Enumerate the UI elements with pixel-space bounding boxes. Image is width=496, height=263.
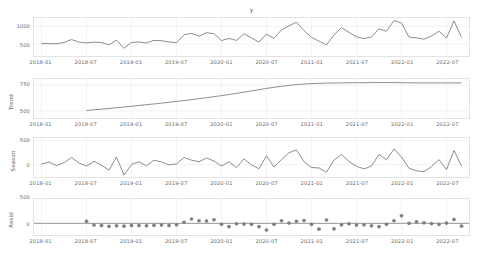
- panel-observed-plot: [34, 18, 469, 56]
- resid-point: [310, 223, 314, 227]
- xtick-label: 2020-07: [255, 238, 277, 244]
- resid-point: [302, 219, 306, 223]
- xtick-label: 2021-01: [301, 180, 323, 186]
- xtick-label: 2019-07: [165, 238, 187, 244]
- resid-point: [85, 220, 89, 224]
- resid-point: [265, 228, 269, 232]
- ytick-label-observed: 500: [0, 42, 30, 48]
- xtick-label: 2018-07: [75, 180, 97, 186]
- xtick-label: 2020-07: [255, 59, 277, 65]
- xtick-label: 2019-07: [165, 121, 187, 127]
- ytick-label-season: 500: [0, 137, 30, 143]
- resid-point: [452, 218, 456, 222]
- resid-point: [362, 223, 366, 227]
- panel-resid: [33, 198, 470, 236]
- xtick-label: 2022-07: [436, 238, 458, 244]
- xtick-label: 2018-01: [29, 180, 51, 186]
- resid-point: [332, 227, 336, 231]
- resid-point: [130, 224, 134, 228]
- resid-point: [370, 224, 374, 228]
- resid-point: [137, 224, 141, 228]
- ytick-label-resid: 500: [0, 194, 30, 200]
- resid-point: [385, 223, 389, 227]
- resid-point: [355, 223, 359, 227]
- ytick-label-observed: 1000: [0, 23, 30, 29]
- resid-point: [392, 219, 396, 223]
- panel-observed: [33, 17, 470, 57]
- resid-point: [220, 223, 224, 227]
- xtick-label: 2021-07: [346, 238, 368, 244]
- xtick-label: 2022-07: [436, 59, 458, 65]
- xtick-label: 2018-01: [29, 59, 51, 65]
- xtick-label: 2019-07: [165, 180, 187, 186]
- panel-season: [33, 137, 470, 178]
- xtick-label: 2021-07: [346, 121, 368, 127]
- resid-point: [100, 224, 104, 228]
- yaxis-label-trend: Trend: [8, 94, 14, 110]
- xtick-label: 2021-01: [301, 238, 323, 244]
- resid-point: [250, 223, 254, 227]
- resid-point: [212, 218, 216, 222]
- resid-point: [280, 219, 284, 223]
- resid-point: [287, 221, 291, 225]
- xtick-label: 2019-01: [120, 59, 142, 65]
- xtick-label: 2019-01: [120, 121, 142, 127]
- xtick-label: 2020-01: [210, 180, 232, 186]
- resid-point: [415, 220, 419, 224]
- xtick-label: 2019-01: [120, 238, 142, 244]
- resid-point: [182, 221, 186, 225]
- chart-title: y: [250, 6, 254, 13]
- resid-point: [145, 224, 149, 228]
- resid-point: [257, 225, 261, 229]
- resid-point: [107, 225, 111, 229]
- seasonal-decomposition-figure: y50010002018-012018-072019-012019-072020…: [0, 0, 496, 263]
- xtick-label: 2022-01: [391, 180, 413, 186]
- yaxis-label-resid: Resid: [8, 212, 14, 228]
- xtick-label: 2022-07: [436, 180, 458, 186]
- resid-point: [92, 223, 96, 227]
- xtick-label: 2020-01: [210, 121, 232, 127]
- resid-point: [437, 223, 441, 227]
- xtick-label: 2018-01: [29, 238, 51, 244]
- resid-point: [175, 223, 179, 227]
- resid-point: [317, 227, 321, 231]
- xtick-label: 2022-01: [391, 59, 413, 65]
- xtick-label: 2020-07: [255, 180, 277, 186]
- resid-point: [227, 225, 231, 229]
- resid-point: [460, 224, 464, 228]
- resid-point: [422, 221, 426, 225]
- xtick-label: 2019-07: [165, 59, 187, 65]
- resid-point: [445, 221, 449, 225]
- resid-point: [122, 224, 126, 228]
- ytick-label-trend: 500: [0, 108, 30, 114]
- xtick-label: 2021-01: [301, 121, 323, 127]
- resid-point: [190, 217, 194, 221]
- resid-point: [115, 224, 119, 228]
- resid-point: [242, 222, 246, 226]
- resid-point: [295, 220, 299, 224]
- resid-point: [197, 219, 201, 223]
- resid-point: [377, 225, 381, 229]
- ytick-label-resid: 0: [0, 221, 30, 227]
- resid-point: [407, 222, 411, 226]
- resid-point: [400, 214, 404, 218]
- panel-trend: [33, 78, 470, 119]
- xtick-label: 2021-07: [346, 180, 368, 186]
- resid-point: [235, 222, 239, 226]
- resid-point: [160, 223, 164, 227]
- panel-season-plot: [34, 138, 469, 177]
- resid-point: [167, 224, 171, 228]
- xtick-label: 2018-07: [75, 121, 97, 127]
- xtick-label: 2018-07: [75, 238, 97, 244]
- xtick-label: 2019-01: [120, 180, 142, 186]
- xtick-label: 2018-01: [29, 121, 51, 127]
- xtick-label: 2020-07: [255, 121, 277, 127]
- series-line-season: [41, 149, 461, 175]
- xtick-label: 2020-01: [210, 238, 232, 244]
- xtick-label: 2021-01: [301, 59, 323, 65]
- panel-resid-plot: [34, 199, 469, 235]
- xtick-label: 2021-07: [346, 59, 368, 65]
- series-line-trend: [86, 83, 461, 111]
- resid-point: [325, 218, 329, 222]
- resid-point: [152, 224, 156, 228]
